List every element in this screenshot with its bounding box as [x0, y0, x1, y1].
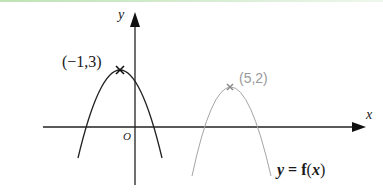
function-label-eq: = [284, 161, 301, 178]
vertex-label-original: (−1,3) [62, 53, 102, 71]
y-axis-arrow-icon [130, 12, 140, 27]
origin-label: O [123, 130, 131, 142]
graph-canvas [0, 0, 383, 193]
parabola-original [78, 70, 162, 158]
x-axis-arrow-icon [352, 122, 366, 132]
x-axis-label: x [366, 107, 372, 123]
y-axis-label: y [118, 7, 124, 23]
parabola-translated [192, 87, 271, 176]
vertex-label-translated: (5,2) [239, 70, 268, 86]
function-label-x: x [312, 161, 320, 178]
function-label: y = f(x) [277, 161, 325, 179]
function-label-close: ) [320, 161, 325, 178]
